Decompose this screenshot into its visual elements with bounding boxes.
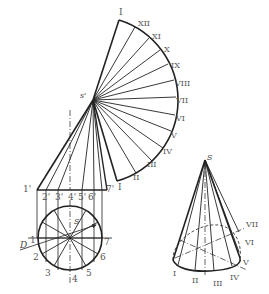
svg-text:4': 4'	[68, 192, 76, 202]
svg-text:VII: VII	[245, 220, 258, 229]
svg-text:XII: XII	[138, 19, 150, 28]
svg-text:6: 6	[100, 252, 106, 262]
svg-text:III: III	[213, 279, 222, 288]
svg-text:6': 6'	[88, 192, 96, 202]
svg-text:VI: VI	[244, 238, 254, 247]
diameter-label: D	[19, 240, 27, 250]
svg-text:1': 1'	[23, 184, 31, 194]
svg-text:IX: IX	[171, 61, 180, 70]
top-view-labels: S 1 2 3 4 5 6 7 D	[19, 217, 110, 284]
front-view	[37, 100, 107, 270]
svg-text:7': 7'	[106, 184, 114, 194]
svg-text:I: I	[119, 7, 123, 17]
svg-text:V: V	[242, 258, 249, 267]
svg-text:I: I	[173, 269, 176, 278]
axonometric-cone	[173, 160, 247, 275]
svg-text:S: S	[74, 217, 80, 226]
svg-text:V: V	[170, 131, 177, 140]
svg-text:III: III	[147, 160, 156, 169]
svg-text:II: II	[133, 173, 139, 182]
svg-text:XI: XI	[152, 32, 161, 41]
svg-text:5: 5	[86, 268, 92, 278]
cone-development-diagram: I XII XI X IX VIII VII VI V IV III II I …	[0, 0, 269, 294]
svg-text:2': 2'	[42, 192, 50, 202]
svg-text:X: X	[164, 45, 170, 54]
svg-text:IV: IV	[230, 273, 239, 282]
svg-text:VIII: VIII	[174, 79, 190, 88]
svg-text:IV: IV	[163, 147, 172, 156]
svg-text:4: 4	[72, 274, 78, 284]
svg-text:2: 2	[33, 252, 39, 262]
svg-text:VI: VI	[175, 114, 185, 123]
svg-text:1: 1	[30, 235, 36, 245]
svg-text:VII: VII	[175, 96, 188, 105]
svg-text:II: II	[192, 276, 198, 285]
svg-text:5': 5'	[78, 192, 86, 202]
svg-text:S: S	[207, 153, 213, 162]
apex-label: s'	[80, 91, 86, 100]
svg-text:7: 7	[104, 237, 110, 247]
svg-text:3: 3	[45, 268, 51, 278]
svg-text:3': 3'	[55, 192, 63, 202]
svg-text:I: I	[118, 182, 122, 192]
